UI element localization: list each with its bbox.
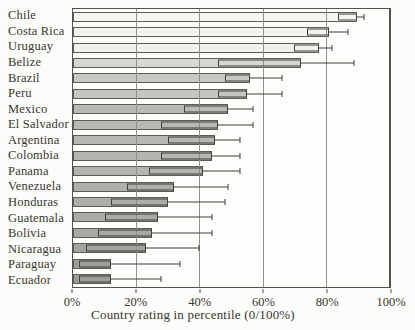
- error-box-argentina: [168, 137, 215, 144]
- country-percentile-bar-chart: ChileCosta RicaUruguayBelizeBrazilPeruMe…: [0, 0, 415, 330]
- error-box-brazil: [225, 75, 250, 82]
- country-label-bolivia: Bolivia: [0, 226, 72, 242]
- whisker-cap-belize: [354, 60, 355, 66]
- whisker-cap-uruguay: [332, 45, 333, 51]
- error-whisker-colombia: [212, 155, 240, 156]
- country-label-honduras: Honduras: [0, 195, 72, 211]
- country-label-el-salvador: El Salvador: [0, 117, 72, 133]
- bar-row-honduras: [73, 194, 389, 209]
- error-box-panama: [149, 168, 203, 175]
- country-label-colombia: Colombia: [0, 148, 72, 164]
- bar-rows: [73, 9, 389, 287]
- error-whisker-guatemala: [158, 217, 212, 218]
- whisker-cap-mexico: [253, 106, 254, 112]
- bar-row-panama: [73, 163, 389, 178]
- country-label-nicaragua: Nicaragua: [0, 241, 72, 257]
- x-tick-80: [327, 289, 328, 293]
- error-box-nicaragua: [86, 245, 146, 252]
- country-label-ecuador: Ecuador: [0, 273, 72, 289]
- error-box-guatemala: [105, 214, 159, 221]
- y-axis-country-labels: ChileCosta RicaUruguayBelizeBrazilPeruMe…: [0, 8, 72, 288]
- bar-row-venezuela: [73, 179, 389, 194]
- bar-row-costa-rica: [73, 24, 389, 39]
- error-box-bolivia: [98, 229, 152, 236]
- error-box-belize: [218, 60, 300, 67]
- error-whisker-nicaragua: [146, 248, 200, 249]
- bar-row-peru: [73, 86, 389, 101]
- bar-row-brazil: [73, 71, 389, 86]
- whisker-cap-bolivia: [212, 230, 213, 236]
- error-whisker-paraguay: [111, 263, 181, 264]
- country-label-chile: Chile: [0, 8, 72, 24]
- country-label-panama: Panama: [0, 164, 72, 180]
- x-tick-20: [135, 289, 136, 293]
- whisker-cap-costa-rica: [347, 29, 348, 35]
- country-label-costa-rica: Costa Rica: [0, 24, 72, 40]
- error-box-paraguay: [79, 260, 111, 267]
- bar-row-uruguay: [73, 40, 389, 55]
- whisker-cap-colombia: [240, 153, 241, 159]
- country-label-brazil: Brazil: [0, 70, 72, 86]
- x-tick-100: [391, 289, 392, 293]
- bar-row-argentina: [73, 133, 389, 148]
- x-tick-40: [199, 289, 200, 293]
- error-box-costa-rica: [307, 29, 329, 36]
- error-box-el-salvador: [161, 121, 218, 128]
- whisker-cap-argentina: [240, 137, 241, 143]
- whisker-cap-guatemala: [212, 214, 213, 220]
- error-whisker-panama: [203, 171, 241, 172]
- error-whisker-bolivia: [152, 232, 212, 233]
- country-label-belize: Belize: [0, 55, 72, 71]
- whisker-cap-peru: [281, 91, 282, 97]
- error-whisker-honduras: [168, 201, 225, 202]
- x-tick-label-100: 100%: [376, 295, 405, 310]
- error-whisker-brazil: [250, 78, 282, 79]
- error-whisker-el-salvador: [218, 124, 253, 125]
- bar-row-chile: [73, 9, 389, 24]
- bar-uruguay: [73, 43, 319, 53]
- bar-brazil: [73, 73, 250, 83]
- bar-row-belize: [73, 55, 389, 70]
- error-box-colombia: [161, 152, 212, 159]
- bar-row-el-salvador: [73, 117, 389, 132]
- bar-chile: [73, 12, 357, 22]
- error-whisker-peru: [247, 93, 282, 94]
- bar-row-paraguay: [73, 256, 389, 271]
- bar-costa-rica: [73, 27, 329, 37]
- bar-row-guatemala: [73, 210, 389, 225]
- error-whisker-argentina: [215, 140, 240, 141]
- error-box-chile: [338, 13, 357, 20]
- error-whisker-ecuador: [111, 279, 162, 280]
- error-whisker-uruguay: [319, 47, 332, 48]
- error-whisker-venezuela: [174, 186, 228, 187]
- bar-row-colombia: [73, 148, 389, 163]
- whisker-cap-honduras: [224, 199, 225, 205]
- whisker-cap-nicaragua: [199, 245, 200, 251]
- error-box-uruguay: [294, 44, 319, 51]
- x-tick-label-0: 0%: [64, 295, 81, 310]
- error-whisker-belize: [301, 63, 355, 64]
- error-box-peru: [218, 90, 246, 97]
- whisker-cap-brazil: [281, 75, 282, 81]
- country-label-venezuela: Venezuela: [0, 179, 72, 195]
- error-box-ecuador: [79, 276, 111, 283]
- whisker-cap-panama: [240, 168, 241, 174]
- x-tick-0: [72, 289, 73, 293]
- plot-area: [72, 8, 391, 288]
- whisker-cap-ecuador: [161, 276, 162, 282]
- country-label-peru: Peru: [0, 86, 72, 102]
- bar-row-mexico: [73, 102, 389, 117]
- country-label-guatemala: Guatemala: [0, 210, 72, 226]
- error-whisker-mexico: [228, 109, 253, 110]
- country-label-mexico: Mexico: [0, 101, 72, 117]
- bar-row-nicaragua: [73, 241, 389, 256]
- bar-row-bolivia: [73, 225, 389, 240]
- x-tick-label-80: 80%: [316, 295, 339, 310]
- error-box-honduras: [111, 198, 168, 205]
- whisker-cap-chile: [363, 14, 364, 20]
- error-whisker-costa-rica: [329, 32, 348, 33]
- x-tick-60: [263, 289, 264, 293]
- country-label-uruguay: Uruguay: [0, 39, 72, 55]
- whisker-cap-venezuela: [227, 184, 228, 190]
- error-box-venezuela: [127, 183, 174, 190]
